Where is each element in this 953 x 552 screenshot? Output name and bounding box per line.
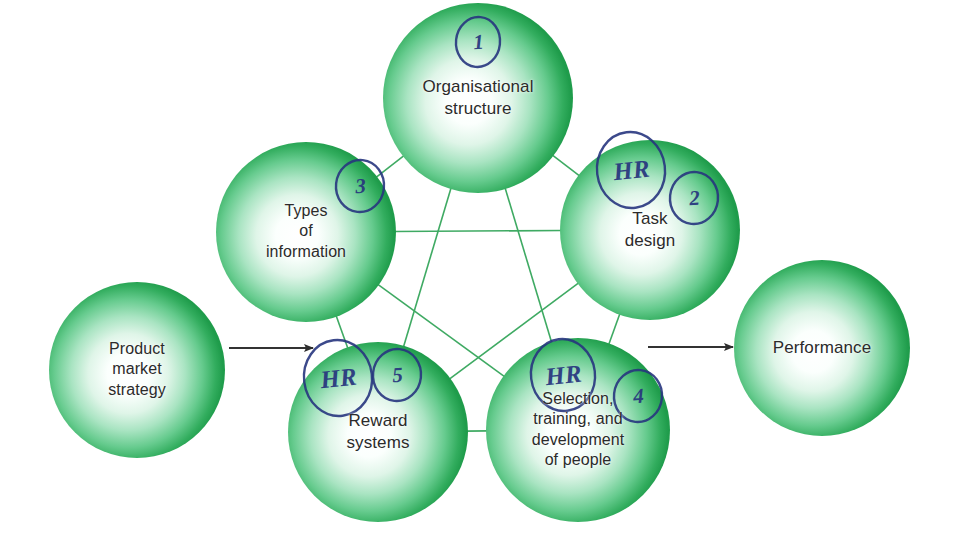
bubble-organisational-structure[interactable]: [383, 3, 573, 193]
diagram-canvas: Product market strategyOrganisational st…: [0, 0, 953, 552]
connector-line: [608, 313, 620, 346]
connector-line: [403, 187, 451, 348]
connector-line: [552, 155, 580, 177]
bubble-reward-systems[interactable]: [288, 342, 468, 522]
bubble-product-market-strategy[interactable]: [49, 282, 225, 458]
diagram-graphics: [0, 0, 953, 552]
connector-line: [375, 155, 404, 178]
flow-arrows: [229, 347, 733, 348]
connector-line: [394, 231, 562, 232]
bubble-performance[interactable]: [734, 260, 910, 436]
bubble-circles: [49, 3, 910, 522]
bubble-types-of-information[interactable]: [216, 142, 396, 322]
connector-line: [336, 315, 348, 349]
bubble-task-design[interactable]: [560, 140, 740, 320]
bubble-selection-training-development[interactable]: [486, 338, 670, 522]
